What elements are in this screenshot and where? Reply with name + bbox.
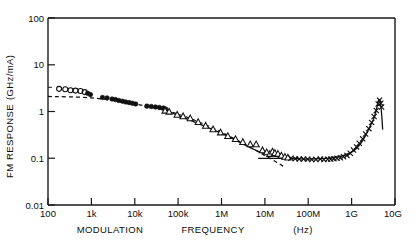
datapoint-open-triangle (180, 113, 186, 119)
datapoint-cross (366, 126, 371, 131)
y-ticklabel-0: 100 (28, 13, 44, 24)
y-ticklabel-1: 10 (33, 59, 44, 70)
datapoint-open-triangle (247, 141, 253, 147)
datapoint-filled-circle (88, 92, 93, 97)
y-ticklabel-2: 1 (39, 106, 44, 117)
fm-response-chart-figure: 100 10 1 0.1 0.01 100 1k 10k 100k 1M 10M (0, 0, 417, 243)
x-axis-title-part-2: (Hz) (293, 224, 313, 235)
x-ticklabel-4: 1M (215, 208, 228, 219)
x-ticklabel-5: 10M (256, 208, 275, 219)
x-axis-title-part-1: FREQUENCY (181, 224, 245, 235)
datapoint-filled-circle (133, 102, 138, 107)
series-crosses (288, 98, 384, 163)
y-axis-title-part-0: FM (4, 163, 15, 178)
datapoint-filled-circle (149, 104, 154, 109)
y-ticklabel-3: 0.1 (31, 153, 44, 164)
datapoint-open-triangle (240, 139, 246, 145)
datapoint-open-triangle (195, 119, 201, 125)
y-axis-title-part-1: RESPONSE (4, 104, 15, 160)
datapoint-open-circle (63, 87, 68, 92)
y-axis-title-part-2: (GHz/mA) (4, 55, 15, 100)
chart-svg: 100 10 1 0.1 0.01 100 1k 10k 100k 1M 10M (0, 0, 417, 243)
y-axis-tick-labels: 100 10 1 0.1 0.01 (26, 13, 45, 211)
x-axis-ticks (48, 198, 395, 205)
x-axis-title-part-0: MODULATION (77, 224, 144, 235)
plot-frame (48, 18, 395, 205)
y-axis-ticks (48, 18, 55, 205)
datapoint-filled-circle (100, 95, 105, 100)
y-axis-title: FM RESPONSE (GHz/mA) (4, 55, 15, 178)
x-axis-tick-labels: 100 1k 10k 100k 1M 10M 100M 1G 10G (40, 208, 402, 219)
x-ticklabel-0: 100 (40, 208, 56, 219)
datapoint-filled-circle (145, 104, 150, 109)
datapoint-open-circle (68, 88, 73, 93)
x-axis-title: MODULATION FREQUENCY (Hz) (77, 224, 313, 235)
data-series-markers (57, 86, 385, 162)
datapoint-filled-circle (105, 96, 110, 101)
x-ticklabel-7: 1G (345, 208, 358, 219)
datapoint-open-triangle (253, 141, 259, 147)
series-filled-circles (85, 91, 168, 111)
datapoint-open-circle (57, 86, 62, 91)
series-open-circles (57, 86, 88, 94)
x-ticklabel-1: 1k (86, 208, 96, 219)
x-ticklabel-8: 10G (384, 208, 402, 219)
x-ticklabel-6: 100M (296, 208, 320, 219)
x-ticklabel-2: 10k (127, 208, 143, 219)
datapoint-open-circle (73, 88, 78, 93)
axis-box (48, 18, 395, 205)
x-ticklabel-3: 100k (168, 208, 189, 219)
series-open-triangles (162, 107, 291, 160)
